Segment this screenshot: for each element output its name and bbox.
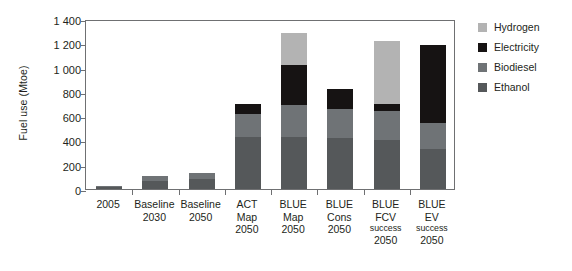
legend-item[interactable]: Hydrogen	[478, 18, 540, 36]
bar[interactable]	[235, 104, 261, 189]
x-axis-label-line: BLUE	[363, 198, 409, 211]
y-axis-tick-mark	[81, 94, 86, 95]
bar-segment	[281, 33, 307, 65]
x-axis-label-line: FCV	[363, 211, 409, 224]
x-axis-label-line: ACT	[224, 198, 270, 211]
bar[interactable]	[96, 186, 122, 189]
legend-item-label: Hydrogen	[494, 21, 540, 33]
x-axis-label: ACTMap2050	[224, 198, 270, 236]
bar-segment	[420, 123, 446, 149]
x-axis-label: 2005	[85, 198, 131, 211]
x-axis-label: BLUECons2050	[316, 198, 362, 236]
legend-item-label: Ethanol	[494, 81, 530, 93]
y-axis-tick-mark	[81, 167, 86, 168]
x-axis-label-line-small: success	[363, 223, 409, 234]
x-axis-label-line: Cons	[316, 211, 362, 224]
bar-segment	[374, 104, 400, 111]
y-axis-tick-label: 1 400	[21, 15, 81, 27]
x-axis-label-line: 2050	[224, 223, 270, 236]
bar[interactable]	[142, 176, 168, 189]
x-axis-label-line: EV	[409, 211, 455, 224]
y-axis-tick-mark	[81, 70, 86, 71]
bar-segment	[374, 41, 400, 104]
y-axis-tick-mark	[81, 21, 86, 22]
y-axis-tick-label: 0	[21, 185, 81, 197]
x-axis-label-line: BLUE	[409, 198, 455, 211]
bar[interactable]	[327, 89, 353, 189]
bar-segment	[281, 65, 307, 105]
bar-segment	[189, 179, 215, 189]
x-axis-label: BLUEMap2050	[270, 198, 316, 236]
bar-segment	[281, 105, 307, 137]
x-axis-tick-mark	[317, 189, 318, 195]
bar-segment	[142, 181, 168, 190]
y-axis-tick-label: 1 000	[21, 64, 81, 76]
x-axis-label-line: 2050	[270, 223, 316, 236]
bar-segment	[420, 45, 446, 123]
bar-segment	[96, 187, 122, 189]
legend-item-label: Electricity	[494, 41, 539, 53]
bar-segment	[235, 104, 261, 114]
legend-item-label: Biodiesel	[494, 61, 537, 73]
bar-segment	[281, 137, 307, 189]
x-axis-tick-mark	[271, 189, 272, 195]
legend-item[interactable]: Biodiesel	[478, 58, 540, 76]
y-axis-tick-label: 800	[21, 88, 81, 100]
bar-segment	[327, 89, 353, 109]
x-axis-label: Baseline2050	[178, 198, 224, 223]
x-axis-label-line: 2005	[85, 198, 131, 211]
x-axis-tick-mark	[364, 189, 365, 195]
x-axis-label: BLUEEVsuccess2050	[409, 198, 455, 247]
x-axis-label-line: 2050	[316, 223, 362, 236]
x-axis-tick-mark	[179, 189, 180, 195]
x-axis-tick-mark	[225, 189, 226, 195]
bar-segment	[327, 109, 353, 138]
x-axis-tick-mark	[132, 189, 133, 195]
x-axis-label-line: BLUE	[270, 198, 316, 211]
bar-segment	[235, 114, 261, 137]
bar[interactable]	[374, 41, 400, 189]
bar[interactable]	[189, 173, 215, 189]
bar-segment	[374, 111, 400, 140]
legend-swatch-icon	[478, 83, 487, 92]
y-axis-tick-mark	[81, 191, 86, 192]
legend-item[interactable]: Ethanol	[478, 78, 540, 96]
y-axis-tick-mark	[81, 45, 86, 46]
fuel-use-stacked-bar-chart: Fuel use (Mtoe) 02004006008001 0001 2001…	[0, 0, 572, 271]
x-axis-label-line: 2050	[363, 234, 409, 247]
bar-segment	[235, 137, 261, 189]
x-axis-label-line: 2050	[178, 211, 224, 224]
legend-swatch-icon	[478, 43, 487, 52]
x-axis-label: Baseline2030	[131, 198, 177, 223]
y-axis-tick-label: 400	[21, 136, 81, 148]
bar-segment	[327, 138, 353, 189]
x-axis-label-line: BLUE	[316, 198, 362, 211]
bar[interactable]	[420, 45, 446, 189]
y-axis-tick-label: 1 200	[21, 39, 81, 51]
legend-swatch-icon	[478, 23, 487, 32]
bar-segment	[374, 140, 400, 189]
x-axis-label-line: Map	[270, 211, 316, 224]
x-axis-label-line: 2030	[131, 211, 177, 224]
bar-segment	[420, 149, 446, 189]
legend-swatch-icon	[478, 63, 487, 72]
bar[interactable]	[281, 33, 307, 189]
x-axis-label-line-small: success	[409, 223, 455, 234]
x-axis-label-line: 2050	[409, 234, 455, 247]
chart-legend: HydrogenElectricityBiodieselEthanol	[478, 18, 540, 98]
x-axis-label: BLUEFCVsuccess2050	[363, 198, 409, 247]
x-axis-label-line: Map	[224, 211, 270, 224]
y-axis-tick-mark	[81, 118, 86, 119]
legend-item[interactable]: Electricity	[478, 38, 540, 56]
x-axis-tick-mark	[410, 189, 411, 195]
y-axis-tick-label: 200	[21, 161, 81, 173]
plot-area: 02004006008001 0001 2001 400	[85, 20, 455, 190]
y-axis-tick-mark	[81, 142, 86, 143]
x-axis-label-line: Baseline	[178, 198, 224, 211]
x-axis-label-line: Baseline	[131, 198, 177, 211]
y-axis-tick-label: 600	[21, 112, 81, 124]
